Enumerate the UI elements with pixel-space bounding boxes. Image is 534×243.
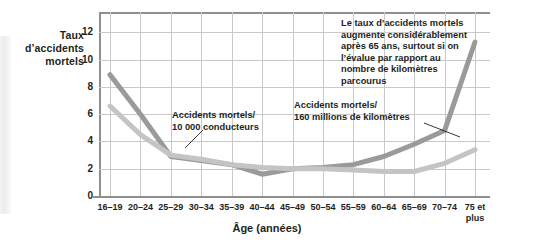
x-tick-label: 30–34 [184, 202, 218, 213]
x-tick-label: 16–19 [93, 202, 127, 213]
y-tick-label: 6 [71, 108, 93, 119]
gridline-horizontal [99, 169, 490, 170]
y-tick-label: 10 [71, 54, 93, 65]
gridline-vertical [110, 12, 111, 196]
annotation-callout-note: Le taux d’accidents mortels augmente con… [341, 18, 516, 88]
gridline-horizontal [99, 141, 490, 142]
x-tick-label: 40–44 [245, 202, 279, 213]
gridline-vertical [140, 12, 141, 196]
gridline-vertical [262, 12, 263, 196]
x-tick-label: 45–49 [276, 202, 310, 213]
x-tick-label: 20–24 [123, 202, 157, 213]
x-axis-line [93, 196, 490, 198]
chart-figure: Taux d’accidents mortels 024681012 16–19… [0, 0, 534, 243]
gridline-vertical [232, 12, 233, 196]
x-tick-label: 35–39 [215, 202, 249, 213]
annotation-series-kilometres: Accidents mortels/ 160 millions de kilom… [294, 100, 444, 123]
y-tick-label: 0 [71, 190, 93, 201]
x-axis-title: Âge (années) [0, 222, 534, 234]
x-tick-label: 60–64 [367, 202, 401, 213]
annotation-series-conducteurs: Accidents mortels/ 10 000 conducteurs [172, 110, 304, 133]
x-tick-label: 75 et plus [458, 202, 492, 224]
plot-frame-top [99, 12, 490, 14]
y-tick-label: 8 [71, 81, 93, 92]
y-tick-label: 4 [71, 135, 93, 146]
x-tick-label: 50–54 [306, 202, 340, 213]
x-tick-label: 65–69 [397, 202, 431, 213]
x-tick-label: 70–74 [428, 202, 462, 213]
gridline-vertical [171, 12, 172, 196]
x-tick-label: 25–29 [154, 202, 188, 213]
x-tick-label: 55–59 [336, 202, 370, 213]
y-tick-label: 12 [71, 26, 93, 37]
y-tick-label: 2 [71, 163, 93, 174]
gridline-vertical [201, 12, 202, 196]
